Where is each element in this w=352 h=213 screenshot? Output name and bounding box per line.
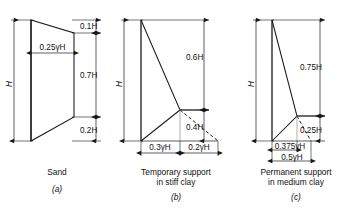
panel-a-sand: H 0.25γH 0.1H 0.7H 0.2H Sand (a)	[5, 20, 101, 194]
trapezoid-outline	[31, 20, 74, 141]
label-b-w0: 0.3γH	[149, 143, 170, 152]
dimension-segments-a: 0.1H 0.7H 0.2H	[72, 20, 101, 141]
dimension-pressure-a: 0.25γH	[31, 43, 74, 53]
label-height-b: H	[115, 81, 124, 87]
earth-pressure-figure: H 0.25γH 0.1H 0.7H 0.2H Sand (a)	[0, 0, 352, 213]
dimension-height-c: H	[247, 20, 274, 141]
caption-b-line1: in stiff clay	[157, 177, 197, 187]
triangle-outline-b	[141, 20, 180, 141]
panel-letter-c: (c)	[291, 192, 301, 202]
dimension-height-a: H	[5, 20, 33, 141]
label-b-w1: 0.2γH	[188, 143, 209, 152]
dimension-height-b: H	[115, 20, 143, 141]
label-a-seg0: 0.1H	[80, 22, 97, 31]
panel-c-medium-clay: H 0.75H 0.25H 0.375γH 0.5γH Permanent su…	[247, 20, 332, 202]
triangle-outline-c	[272, 20, 297, 141]
label-c-seg0: 0.75H	[300, 63, 322, 72]
dimension-widths-b: 0.3γH 0.2γH	[141, 141, 218, 156]
dimension-segments-b: 0.6H 0.4H	[141, 20, 209, 141]
dimension-segments-c: 0.75H 0.25H	[272, 20, 325, 141]
caption-a-line0: Sand	[47, 167, 67, 177]
caption-c-line0: Permanent support	[260, 167, 332, 177]
label-b-seg0: 0.6H	[186, 53, 203, 62]
label-height-a: H	[5, 81, 14, 87]
figure-canvas: H 0.25γH 0.1H 0.7H 0.2H Sand (a)	[0, 0, 352, 213]
dimension-widths-c: 0.375γH 0.5γH	[272, 141, 311, 163]
caption-b-line0: Temporary support	[141, 167, 211, 177]
pressure-diagram-b	[141, 20, 218, 141]
label-a-seg2: 0.2H	[80, 126, 97, 135]
caption-c-line1: in medium clay	[268, 177, 325, 187]
panel-letter-b: (b)	[171, 192, 181, 202]
label-c-w1: 0.5γH	[281, 153, 302, 162]
label-c-seg1: 0.25H	[300, 126, 322, 135]
label-b-seg1: 0.4H	[186, 123, 203, 132]
label-pressure-a: 0.25γH	[40, 43, 66, 52]
label-a-seg1: 0.7H	[80, 71, 97, 80]
pressure-diagram-c	[272, 20, 325, 141]
panel-letter-a: (a)	[52, 184, 62, 194]
label-height-c: H	[247, 81, 256, 87]
panel-b-stiff-clay: H 0.6H 0.4H 0.3γH 0.2γH Temporary suppor…	[115, 20, 218, 202]
label-c-w0: 0.375γH	[275, 142, 306, 151]
pressure-diagram-a	[31, 20, 74, 141]
